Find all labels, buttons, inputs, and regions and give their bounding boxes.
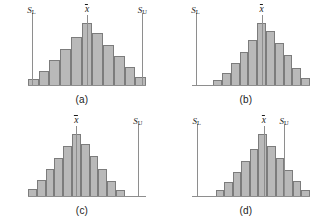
plot-area-a: SL x SU [14,6,150,86]
histogram-bar [293,181,302,196]
histogram-bar [107,181,116,196]
panel-c: SL x SU (c) [0,111,164,222]
histogram-bar [240,52,249,85]
histogram-bars-d [216,132,310,196]
histogram-bar [60,49,71,85]
plot-area-b: SL x SU [178,6,314,86]
process-mean-line-a [87,15,88,85]
process-mean-label-c: x [74,116,78,126]
lower-spec-label-b: SL [191,6,199,15]
histogram-bar [39,71,50,85]
process-mean-line-d [264,126,265,196]
histogram-bar [301,78,310,85]
process-mean-line-c [76,126,77,196]
upper-spec-line-a [142,13,143,85]
histogram-bar [231,63,240,85]
upper-spec-line-c [138,124,139,196]
lower-spec-label-d: SL [192,117,200,126]
histogram-bar [248,40,257,85]
panel-a: SL x SU (a) [0,0,164,111]
histogram-bar [90,156,99,196]
baseline-axis-d [192,196,310,197]
histogram-bar [98,169,107,196]
histogram-bar [250,149,259,196]
histogram-bar [114,56,125,85]
upper-spec-label-c: SU [133,117,142,126]
baseline-axis-b [192,85,310,86]
histogram-bar [63,146,72,196]
upper-spec-label-d: SU [279,117,288,126]
histogram-bar [241,161,250,196]
lower-spec-line-d [197,124,198,196]
histogram-bar [46,169,55,196]
lower-spec-line-a [32,13,33,85]
lower-spec-line-b [196,13,197,85]
panel-caption-d: (d) [164,205,328,216]
histogram-bar [92,33,103,85]
panel-b: SL x SU (b) [164,0,328,111]
histogram-bar [267,146,276,196]
histogram-bar [81,144,90,196]
histogram-bar [28,189,37,196]
histogram-bar [103,45,114,85]
histogram-bar [233,172,242,196]
histogram-bar [125,67,136,85]
baseline-axis-a [28,85,146,86]
histogram-bar [284,55,293,85]
plot-area-c: SL x SU [14,117,150,197]
capability-histogram-figure: SL x SU (a) SL x SU (b) SL x SU [0,0,328,222]
histogram-bar [276,158,285,196]
panel-caption-a: (a) [0,94,164,105]
histogram-bar [71,37,82,85]
upper-spec-line-d [284,124,285,196]
histogram-bar [135,77,146,85]
panel-caption-b: (b) [164,94,328,105]
process-mean-label-d: x [262,116,266,126]
process-mean-line-b [262,15,263,85]
histogram-bar [222,73,231,85]
panel-caption-c: (c) [0,205,164,216]
histogram-bar [292,68,301,85]
histogram-bar [224,182,233,196]
lower-spec-label-a: SL [27,6,35,15]
process-mean-label-b: x [260,5,264,15]
histogram-bar [54,158,63,196]
process-mean-label-a: x [85,5,89,15]
baseline-axis-c [28,196,146,197]
histogram-bar [37,180,46,196]
upper-spec-label-a: SU [138,6,147,15]
histogram-bar [49,60,60,85]
histogram-bar [258,134,267,196]
plot-area-d: SL x SU [178,117,314,197]
histogram-bar [284,170,293,196]
histogram-bar [275,43,284,85]
panel-d: SL x SU (d) [164,111,328,222]
histogram-bar [266,31,275,85]
